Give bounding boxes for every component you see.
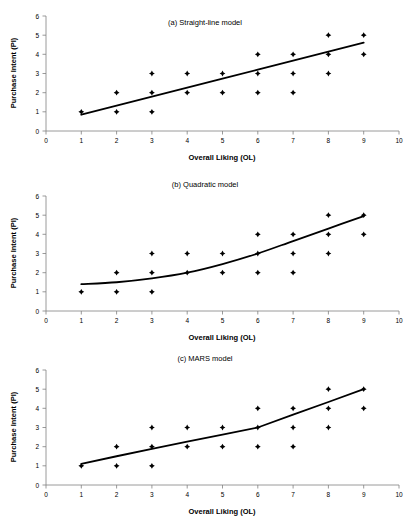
data-point: [290, 231, 296, 237]
panel-c-data-points: [78, 386, 366, 468]
x-tick-0: 0: [44, 491, 48, 498]
panel-b-y-ticks: 6 5 4 3 2 1 0: [35, 193, 46, 315]
data-point: [326, 405, 332, 411]
x-tick-6: 6: [256, 491, 260, 498]
y-tick-3: 3: [35, 70, 39, 77]
data-point: [149, 463, 155, 469]
y-tick-4: 4: [35, 405, 39, 412]
data-point: [220, 270, 226, 276]
data-point: [149, 109, 155, 115]
x-tick-3: 3: [150, 491, 154, 498]
data-point: [326, 32, 332, 38]
data-point: [290, 270, 296, 276]
panel-a-title: (a) Straight-line model: [168, 18, 242, 27]
panel-c: (c) MARS model 6 5 4 3 2 1 0: [0, 348, 410, 522]
data-point: [326, 71, 332, 77]
data-point: [326, 386, 332, 392]
data-point: [255, 90, 261, 96]
x-tick-0: 0: [44, 317, 48, 324]
x-tick-2: 2: [115, 137, 119, 144]
y-tick-0: 0: [35, 482, 39, 489]
panel-a-data-points: [78, 32, 366, 114]
panel-c-y-axis-title: Purchase Intent (PI): [9, 391, 18, 462]
data-point: [255, 270, 261, 276]
y-tick-2: 2: [35, 269, 39, 276]
data-point: [290, 251, 296, 257]
panel-b-x-ticks: 0 1 2 3 4 5 6 7 8 9 10: [44, 311, 403, 324]
x-tick-4: 4: [185, 137, 189, 144]
panel-b-plot: (b) Quadratic model 6 5 4 3 2 1 0: [0, 174, 410, 348]
y-tick-6: 6: [35, 367, 39, 374]
data-point: [220, 90, 226, 96]
panel-b: (b) Quadratic model 6 5 4 3 2 1 0: [0, 174, 410, 348]
panel-a-plot: (a) Straight-line model 6 5 4 3 2 1 0: [0, 0, 410, 174]
data-point: [220, 71, 226, 77]
data-point: [361, 231, 367, 237]
data-point: [114, 90, 120, 96]
x-tick-9: 9: [362, 491, 366, 498]
data-point: [114, 463, 120, 469]
data-point: [255, 71, 261, 77]
y-tick-5: 5: [35, 386, 39, 393]
data-point: [78, 289, 84, 295]
data-point: [114, 444, 120, 450]
x-tick-8: 8: [327, 137, 331, 144]
data-point: [184, 425, 190, 431]
data-point: [326, 231, 332, 237]
data-point: [149, 270, 155, 276]
y-tick-2: 2: [35, 89, 39, 96]
panel-a-y-axis-title: Purchase Intent (PI): [9, 37, 18, 108]
panel-c-y-ticks: 6 5 4 3 2 1 0: [35, 367, 46, 489]
data-point: [149, 251, 155, 257]
x-tick-6: 6: [256, 137, 260, 144]
data-point: [149, 90, 155, 96]
x-tick-7: 7: [291, 491, 295, 498]
data-point: [220, 444, 226, 450]
y-tick-5: 5: [35, 212, 39, 219]
x-tick-10: 10: [395, 137, 403, 144]
y-tick-6: 6: [35, 13, 39, 20]
data-point: [361, 51, 367, 57]
x-tick-6: 6: [256, 317, 260, 324]
panel-b-x-axis-title: Overall Liking (OL): [188, 333, 256, 342]
panel-a-y-ticks: 6 5 4 3 2 1 0: [35, 13, 46, 135]
data-point: [361, 405, 367, 411]
panel-c-plot: (c) MARS model 6 5 4 3 2 1 0: [0, 348, 410, 524]
x-tick-3: 3: [150, 137, 154, 144]
x-tick-8: 8: [327, 491, 331, 498]
panel-a-x-ticks: 0 1 2 3 4 5 6 7 8 9 10: [44, 131, 403, 144]
data-point: [290, 71, 296, 77]
y-tick-2: 2: [35, 443, 39, 450]
data-point: [114, 109, 120, 115]
data-point: [255, 51, 261, 57]
y-tick-1: 1: [35, 462, 39, 469]
panel-a-fit-line: [81, 43, 363, 115]
data-point: [290, 51, 296, 57]
x-tick-10: 10: [395, 491, 403, 498]
y-tick-0: 0: [35, 128, 39, 135]
x-tick-4: 4: [185, 491, 189, 498]
x-tick-5: 5: [221, 317, 225, 324]
data-point: [220, 251, 226, 257]
data-point: [255, 405, 261, 411]
data-point: [149, 425, 155, 431]
y-tick-6: 6: [35, 193, 39, 200]
panel-b-y-axis-title: Purchase Intent (PI): [9, 217, 18, 288]
x-tick-4: 4: [185, 317, 189, 324]
panel-c-title: (c) MARS model: [177, 354, 232, 363]
x-tick-5: 5: [221, 491, 225, 498]
x-tick-9: 9: [362, 317, 366, 324]
data-point: [149, 71, 155, 77]
data-point: [220, 425, 226, 431]
figure-root: (a) Straight-line model 6 5 4 3 2 1 0: [0, 0, 410, 524]
panel-a-x-axis-title: Overall Liking (OL): [188, 153, 256, 162]
data-point: [290, 425, 296, 431]
y-tick-3: 3: [35, 250, 39, 257]
data-point: [255, 444, 261, 450]
y-tick-4: 4: [35, 51, 39, 58]
y-tick-1: 1: [35, 288, 39, 295]
y-tick-3: 3: [35, 424, 39, 431]
panel-a: (a) Straight-line model 6 5 4 3 2 1 0: [0, 0, 410, 174]
data-point: [290, 90, 296, 96]
panel-b-title: (b) Quadratic model: [172, 180, 239, 189]
